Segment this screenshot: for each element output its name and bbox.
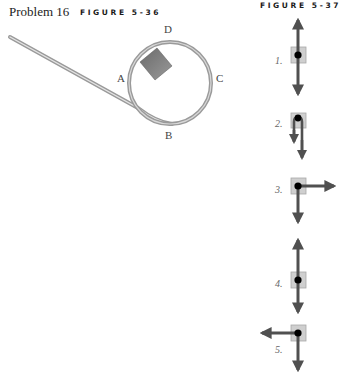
point-label-c: C bbox=[216, 72, 223, 84]
figure-canvas: Problem 16 FIGURE 5-36 FIGURE 5-37 bbox=[0, 0, 349, 374]
option-1-diagram bbox=[291, 20, 306, 94]
option-5-label: 5. bbox=[275, 344, 283, 355]
option-5-diagram bbox=[262, 325, 306, 370]
option-4-diagram bbox=[291, 240, 306, 312]
point-label-d: D bbox=[164, 23, 172, 35]
point-label-a: A bbox=[117, 72, 125, 84]
option-3-label: 3. bbox=[275, 184, 283, 195]
option-3-diagram bbox=[291, 178, 334, 222]
option-2-diagram bbox=[291, 113, 306, 158]
option-2-label: 2. bbox=[275, 118, 283, 129]
loop-track-diagram bbox=[0, 0, 349, 374]
point-label-b: B bbox=[165, 129, 172, 141]
option-4-label: 4. bbox=[275, 278, 283, 289]
loop-circle bbox=[129, 42, 211, 124]
option-1-label: 1. bbox=[275, 55, 283, 66]
